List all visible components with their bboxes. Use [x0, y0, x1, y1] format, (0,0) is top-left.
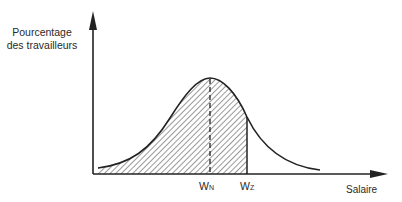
- x-axis-label: Salaire: [346, 183, 377, 196]
- y-axis-label-line2: des travailleurs: [0, 39, 84, 52]
- y-axis-label-line1: Pourcentage: [0, 26, 84, 39]
- wz-main: W: [240, 180, 250, 192]
- wz-label: WZ: [240, 180, 254, 194]
- wn-sub: N: [209, 184, 214, 191]
- y-axis-label: Pourcentage des travailleurs: [0, 26, 84, 52]
- y-axis-arrow-icon: [89, 11, 97, 30]
- x-axis-arrow-icon: [370, 170, 388, 178]
- wn-main: W: [199, 180, 209, 192]
- wz-sub: Z: [250, 184, 254, 191]
- wn-label: WN: [199, 180, 214, 194]
